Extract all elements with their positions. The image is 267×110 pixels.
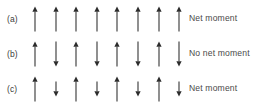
- moment-arrow-down: [91, 72, 103, 106]
- arrow-field-b: [29, 37, 181, 71]
- moment-arrow-up: [153, 72, 165, 106]
- moment-arrow-down: [132, 72, 144, 106]
- figure-row-c: (c) Net moment: [0, 72, 267, 106]
- moment-arrow-down: [91, 37, 103, 71]
- figure-row-b: (b) No net moment: [0, 37, 267, 71]
- moment-arrow-down: [50, 72, 62, 106]
- moment-arrow-up: [91, 2, 103, 36]
- magnetic-ordering-figure: (a) Net moment (b) No net moment (c) Net…: [0, 0, 267, 110]
- row-caption-c: Net moment: [189, 84, 237, 93]
- moment-arrow-up: [70, 37, 82, 71]
- row-label-b: (b): [7, 50, 29, 59]
- moment-arrow-down: [132, 37, 144, 71]
- moment-arrow-up: [50, 2, 62, 36]
- moment-arrow-up: [29, 72, 41, 106]
- row-label-a: (a): [7, 15, 29, 24]
- moment-arrow-down: [173, 72, 185, 106]
- arrow-field-a: [29, 2, 181, 36]
- arrow-field-c: [29, 72, 181, 106]
- moment-arrow-down: [173, 37, 185, 71]
- moment-arrow-up: [111, 37, 123, 71]
- moment-arrow-up: [132, 2, 144, 36]
- moment-arrow-up: [29, 2, 41, 36]
- figure-row-a: (a) Net moment: [0, 2, 267, 36]
- moment-arrow-up: [29, 37, 41, 71]
- moment-arrow-up: [111, 2, 123, 36]
- row-caption-b: No net moment: [189, 49, 250, 58]
- moment-arrow-up: [111, 72, 123, 106]
- moment-arrow-up: [153, 2, 165, 36]
- moment-arrow-up: [70, 2, 82, 36]
- row-caption-a: Net moment: [189, 14, 237, 23]
- moment-arrow-up: [70, 72, 82, 106]
- row-label-c: (c): [7, 85, 29, 94]
- moment-arrow-up: [173, 2, 185, 36]
- moment-arrow-down: [50, 37, 62, 71]
- moment-arrow-up: [153, 37, 165, 71]
